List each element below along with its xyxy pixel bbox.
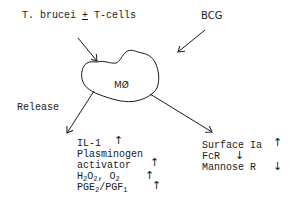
arrow-down-icon: ↓ (235, 150, 244, 161)
surface-item-mannose: Mannose R (202, 162, 256, 173)
macrophage-shape (82, 50, 159, 101)
release-item-activator: activator (77, 160, 131, 171)
release-item-plasminogen: Plasminogen (77, 149, 143, 160)
arrow-up-icon: ↑ (150, 157, 159, 168)
arrow-up-icon: ↑ (152, 180, 161, 191)
surface-item-ia: Surface Ia (202, 140, 262, 151)
arrow-bcg-to-mo (178, 30, 205, 52)
input-tbrucei-label: T. brucei + T-cells (22, 10, 136, 21)
macrophage-label: MØ (114, 80, 129, 91)
arrow-release (67, 91, 94, 133)
surface-item-fcr: FcR (202, 151, 220, 162)
release-item-h2o2: H2O2, O2 (77, 171, 120, 182)
release-item-pge: PGE2/PGF1 (77, 182, 127, 193)
release-item-il1: IL-1 (77, 138, 101, 149)
arrow-down-icon: ↓ (273, 161, 282, 172)
arrow-tbrucei-to-mo (78, 38, 97, 61)
input-bcg-label: BCG (201, 10, 222, 21)
release-label: Release (17, 102, 59, 113)
arrow-up-icon: ↑ (114, 135, 123, 146)
arrow-up-icon: ↑ (273, 137, 282, 148)
arrow-surface (150, 94, 212, 132)
